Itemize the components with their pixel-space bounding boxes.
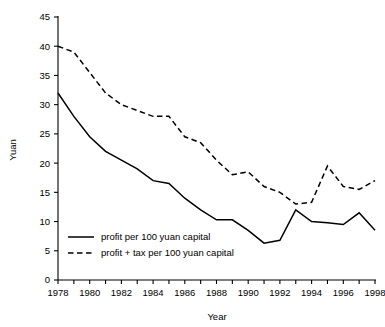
y-axis: 051015202530354045	[39, 11, 58, 285]
legend-label-2: profit + tax per 100 yuan capital	[101, 247, 234, 258]
y-tick-label: 15	[39, 187, 50, 198]
x-tick-label: 1994	[301, 287, 322, 298]
x-tick-label: 1980	[79, 287, 100, 298]
x-axis: 1978198019821984198619881990199219941996…	[47, 280, 385, 298]
y-tick-label: 45	[39, 11, 50, 22]
series-line-1	[58, 93, 375, 243]
legend-label-1: profit per 100 yuan capital	[101, 231, 210, 242]
x-tick-label: 1984	[143, 287, 164, 298]
series-line-2	[58, 46, 375, 204]
x-tick-label: 1998	[364, 287, 385, 298]
y-tick-label: 0	[45, 274, 50, 285]
chart-legend: profit per 100 yuan capitalprofit + tax …	[68, 231, 234, 258]
x-tick-label: 1986	[174, 287, 195, 298]
x-tick-label: 1992	[269, 287, 290, 298]
y-tick-label: 25	[39, 128, 50, 139]
x-tick-label: 1990	[238, 287, 259, 298]
x-tick-label: 1982	[111, 287, 132, 298]
y-tick-label: 5	[45, 245, 50, 256]
x-tick-label: 1978	[47, 287, 68, 298]
chart-container: 051015202530354045 197819801982198419861…	[0, 0, 385, 327]
x-tick-label: 1988	[206, 287, 227, 298]
y-tick-label: 40	[39, 41, 50, 52]
y-tick-label: 30	[39, 99, 50, 110]
x-axis-title: Year	[207, 311, 226, 322]
y-axis-title: Yuan	[7, 139, 18, 161]
y-tick-label: 10	[39, 216, 50, 227]
y-tick-label: 35	[39, 70, 50, 81]
line-chart: 051015202530354045 197819801982198419861…	[0, 0, 385, 327]
y-tick-label: 20	[39, 158, 50, 169]
x-tick-label: 1996	[333, 287, 354, 298]
series-layer	[58, 46, 375, 243]
